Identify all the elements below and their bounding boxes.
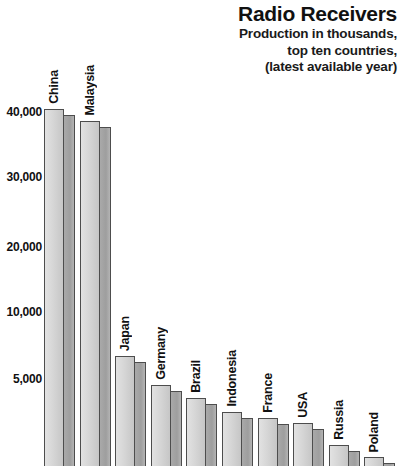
bar-category-label: China [44, 70, 64, 104]
bar-group[interactable] [115, 356, 146, 466]
bar-group[interactable] [44, 109, 75, 466]
bar-side-face [242, 418, 253, 466]
bar-group[interactable] [222, 412, 253, 466]
bar-front-face [293, 423, 313, 466]
plot-area: ChinaMalaysiaJapanGermanyBrazilIndonesia… [42, 0, 401, 466]
bar-category-label: USA [293, 392, 313, 418]
bar-side-face [206, 404, 217, 466]
y-axis-tick-label: 30,000 [0, 170, 42, 184]
chart-root: Radio Receivers Production in thousands,… [0, 0, 401, 466]
bar-side-face [349, 451, 360, 466]
bar-front-face [258, 418, 278, 466]
bar-group[interactable] [80, 121, 111, 466]
y-axis-tick-label: 20,000 [0, 240, 42, 254]
bar-group[interactable] [293, 423, 324, 466]
bar-side-face [171, 391, 182, 466]
bar-group[interactable] [364, 457, 395, 466]
bar-category-label: Brazil [186, 360, 206, 393]
bar-front-face [151, 385, 171, 466]
y-axis: 40,00030,00020,00010,0005,000 [0, 0, 42, 466]
bar-side-face [278, 424, 289, 466]
bar-group[interactable] [258, 418, 289, 466]
bar-category-label: Russia [329, 400, 349, 440]
bar-front-face [364, 457, 384, 466]
y-axis-tick-label: 40,000 [0, 105, 42, 119]
bar-front-face [115, 356, 135, 466]
bar-category-label: France [258, 373, 278, 413]
bar-category-label: Japan [115, 316, 135, 351]
bar-front-face [44, 109, 64, 466]
bar-front-face [186, 398, 206, 466]
y-axis-tick-label: 10,000 [0, 305, 42, 319]
bar-category-label: Malaysia [80, 65, 100, 116]
bar-front-face [329, 445, 349, 466]
bar-side-face [313, 429, 324, 466]
bar-group[interactable] [186, 398, 217, 466]
bar-category-label: Germany [151, 327, 171, 380]
bar-group[interactable] [151, 385, 182, 466]
bar-side-face [100, 127, 111, 466]
bar-side-face [135, 362, 146, 466]
bar-group[interactable] [329, 445, 360, 466]
bar-category-label: Indonesia [222, 350, 242, 407]
bar-front-face [80, 121, 100, 466]
bar-front-face [222, 412, 242, 466]
bar-category-label: Poland [364, 412, 384, 452]
y-axis-tick-label: 5,000 [0, 372, 42, 386]
bar-side-face [64, 115, 75, 466]
